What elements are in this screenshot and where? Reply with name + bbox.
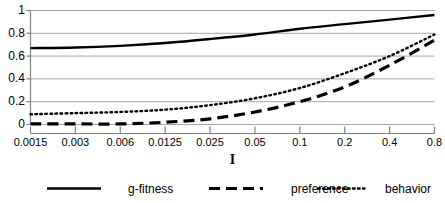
x-axis-tick-label: 0.4 — [367, 137, 413, 148]
axis-lines — [31, 11, 435, 134]
x-axis-tick-label: 0.0015 — [8, 137, 54, 148]
x-axis-tick-label: 0.1 — [277, 137, 323, 148]
legend-label-behavior: behavior — [385, 183, 431, 195]
x-axis-tick-label: 0.003 — [52, 137, 98, 148]
y-axis-tick-label: 0.8 — [0, 27, 25, 39]
legend-label-preference: preference — [291, 183, 348, 195]
y-axis-tick-label: 0.4 — [0, 72, 25, 84]
chart-canvas — [0, 0, 445, 203]
legend-label-g-fitness: g-fitness — [128, 183, 173, 195]
y-axis-tick-label: 0 — [0, 118, 25, 130]
series-line-g-fitness — [31, 15, 435, 48]
x-axis-tick-label: 0.2 — [322, 137, 368, 148]
series-lines — [31, 15, 435, 124]
x-axis-title: I — [213, 152, 253, 168]
x-axis-tick-label: 0.006 — [97, 137, 143, 148]
y-axis-tick-label: 0.2 — [0, 95, 25, 107]
x-axis-tick-label: 0.025 — [187, 137, 233, 148]
x-axis-tick-label: 0.05 — [232, 137, 278, 148]
series-line-preference — [31, 40, 435, 124]
y-axis-tick-label: 1 — [0, 4, 25, 16]
x-axis-tick-label: 0.8 — [412, 137, 445, 148]
x-axis-ticks — [31, 127, 435, 134]
x-axis-tick-label: 0.0125 — [142, 137, 188, 148]
y-axis-tick-label: 0.6 — [0, 50, 25, 62]
chart-container: 00.20.40.60.81 0.00150.0030.0060.01250.0… — [0, 0, 445, 203]
gridlines — [31, 11, 435, 125]
